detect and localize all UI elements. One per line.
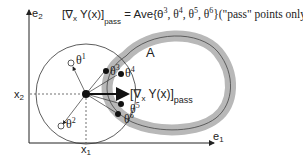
formula: [∇x Y(x)]pass = Ave{θ3, θ4, θ5, θ6}("pas… bbox=[62, 6, 303, 26]
diagram-canvas: θ1 θ2 θ3 θ4 θ5 θ6 A [∇x Y(x)]pass e2 e1 … bbox=[0, 0, 303, 158]
label-theta3: θ3 bbox=[110, 63, 120, 78]
x-axis-label: e1 bbox=[213, 130, 224, 144]
point-theta5 bbox=[118, 101, 124, 107]
point-theta2 bbox=[58, 123, 64, 129]
point-theta1 bbox=[68, 60, 74, 66]
center-point bbox=[82, 90, 90, 98]
y-axis-label: e2 bbox=[32, 7, 43, 21]
label-theta2: θ2 bbox=[66, 116, 76, 131]
x2-tick-label: x2 bbox=[14, 88, 25, 102]
x1-tick-label: x1 bbox=[81, 143, 92, 157]
point-theta3 bbox=[103, 68, 109, 74]
region-label: A bbox=[146, 45, 155, 60]
label-theta1: θ1 bbox=[76, 52, 86, 67]
point-theta6 bbox=[115, 111, 121, 117]
